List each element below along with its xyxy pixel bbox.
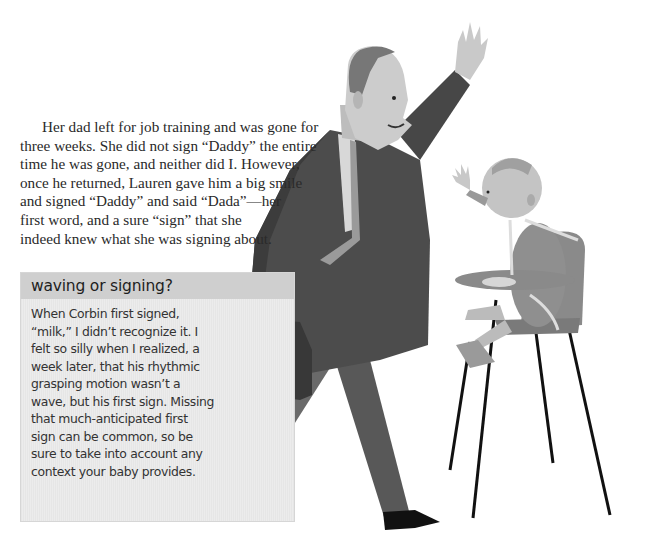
baby-highchair <box>450 158 610 518</box>
sidebar-line: wave, but his first sign. Missing <box>31 393 221 411</box>
article-line: three weeks. She did not sign “Daddy” th… <box>20 137 320 156</box>
sidebar-line: context your baby provides. <box>31 463 221 481</box>
article-line: and signed “Daddy” and said “Dada”—her <box>20 192 320 211</box>
article-line: Her dad left for job training and was go… <box>20 118 320 137</box>
article-line: indeed knew what she was signing about. <box>20 230 320 249</box>
article-line: once he returned, Lauren gave him a big … <box>20 174 320 193</box>
article-paragraph: Her dad left for job training and was go… <box>20 118 320 248</box>
sidebar-line: “milk,” I didn’t recognize it. I <box>31 323 221 341</box>
sidebar-line: When Corbin first signed, <box>31 305 221 323</box>
article-line: first word, and a sure “sign” that she <box>20 211 320 230</box>
sidebar-line: week later, that his rhythmic <box>31 358 221 376</box>
article-line: time he was gone, and neither did I. How… <box>20 155 320 174</box>
sidebar-line: sign can be common, so be <box>31 428 221 446</box>
sidebar-line: that much-anticipated first <box>31 410 221 428</box>
sidebar-line: felt so silly when I realized, a <box>31 340 221 358</box>
tip-sidebar-box: waving or signing? When Corbin first sig… <box>20 272 295 522</box>
sidebar-line: grasping motion wasn’t a <box>31 375 221 393</box>
sidebar-title: waving or signing? <box>21 273 294 299</box>
sidebar-line: sure to take into account any <box>31 445 221 463</box>
sidebar-body: When Corbin first signed, “milk,” I didn… <box>21 299 221 480</box>
